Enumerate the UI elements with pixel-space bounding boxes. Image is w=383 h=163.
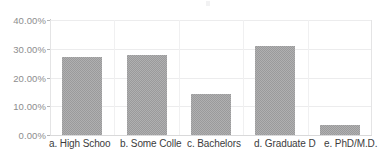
y-axis-label-10: 10.00%: [2, 101, 46, 112]
x-axis-label-bachelors: c. Bachelors: [187, 138, 241, 149]
x-axis-label-high-school: a. High Schoo: [49, 138, 111, 149]
y-axis-labels: 40.00% 30.00% 20.00% 10.00% 0.00%: [0, 0, 46, 163]
category-separator-2: [179, 20, 180, 135]
bar-bachelors: [191, 94, 231, 135]
x-axis-labels: a. High Schoo b. Some Colle c. Bachelors…: [50, 138, 383, 156]
category-separator-3: [243, 20, 244, 135]
bar-high-school: [62, 57, 102, 135]
y-axis-label-20: 20.00%: [2, 72, 46, 83]
category-separator-1: [114, 20, 115, 135]
y-axis-label-30: 30.00%: [2, 43, 46, 54]
gridline-30: [50, 49, 372, 50]
gridline-40: [50, 20, 372, 21]
x-axis-label-graduate-degree: d. Graduate D: [254, 138, 316, 149]
category-separator-0: [50, 20, 51, 135]
plot-area: [50, 20, 372, 135]
x-axis-label-phd-md: e. PhD/M.D.: [324, 138, 377, 149]
category-separator-5: [371, 20, 372, 135]
bar-some-college: [127, 55, 167, 136]
x-axis-label-some-college: b. Some Colle: [120, 138, 182, 149]
category-separator-4: [308, 20, 309, 135]
bar-chart: 40.00% 30.00% 20.00% 10.00% 0.00% a. Hi: [0, 0, 383, 163]
bar-graduate-degree: [255, 46, 295, 135]
gridline-baseline-0: [50, 135, 372, 136]
y-axis-label-0: 0.00%: [2, 130, 46, 141]
capture-artifact: [206, 1, 210, 6]
y-axis-label-40: 40.00%: [2, 15, 46, 26]
bar-phd-md: [320, 125, 360, 135]
